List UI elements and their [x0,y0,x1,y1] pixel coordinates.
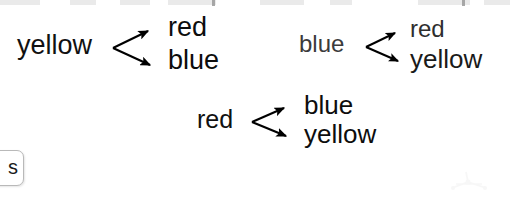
top-edge-artifact-2 [120,0,150,5]
branch-arrows-group-2 [364,26,408,68]
top-edge-artifact-4 [260,0,304,5]
clipped-button-label: s [8,157,18,177]
top-edge-artifact-0 [0,0,40,5]
top-edge-artifact-3 [168,0,216,5]
source-label-group-1: yellow [17,32,92,59]
source-label-group-3: red [197,107,233,132]
top-edge-artifact-1 [70,0,96,5]
target-label-group-2-yellow: yellow [410,46,482,72]
target-label-group-3-yellow: yellow [304,121,376,147]
target-label-group-3-blue: blue [304,92,353,118]
branch-arrows-group-1 [110,22,162,74]
top-edge-tick-1 [462,0,465,6]
top-edge-tick-0 [212,0,215,6]
target-label-group-1-red: red [168,14,207,41]
diagram-canvas: yellow red blue blue red yell [0,0,510,197]
source-label-group-2: blue [299,32,344,56]
top-edge-artifact-5 [330,0,352,5]
clipped-button[interactable]: s [0,150,24,186]
target-label-group-1-blue: blue [168,47,219,74]
top-edge-artifact-7 [484,0,510,5]
faint-watermark [438,170,498,192]
branch-arrows-group-3 [250,100,298,144]
target-label-group-2-red: red [410,17,445,41]
